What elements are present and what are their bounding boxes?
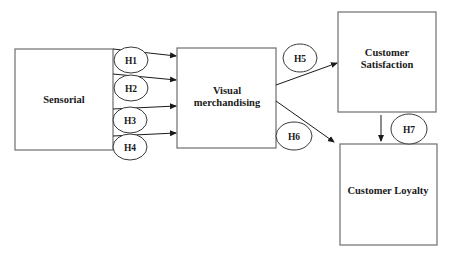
visual-merchandising-label-line2: merchandising bbox=[194, 97, 261, 108]
hypothesis-h1: H1 bbox=[114, 47, 148, 73]
sensorial-label: Sensorial bbox=[43, 94, 85, 105]
hypothesis-h2: H2 bbox=[114, 75, 148, 101]
hypothesis-h2-label: H2 bbox=[125, 84, 137, 94]
hypothesis-h3: H3 bbox=[113, 107, 147, 133]
customer-satisfaction-label-line1: Customer bbox=[365, 47, 410, 58]
hypothesis-h3-label: H3 bbox=[124, 116, 136, 126]
hypothesis-h1-label: H1 bbox=[125, 56, 137, 66]
hypothesis-h4: H4 bbox=[113, 134, 147, 160]
hypothesis-h5-label: H5 bbox=[294, 54, 306, 64]
visual-merchandising-label-line1: Visual bbox=[213, 85, 241, 96]
hypothesis-h7-label: H7 bbox=[403, 125, 415, 135]
customer-loyalty-label: Customer Loyalty bbox=[347, 185, 429, 196]
hypothesis-h4-label: H4 bbox=[124, 143, 136, 153]
conceptual-model-diagram: Sensorial Visual merchandising Customer … bbox=[0, 0, 452, 257]
hypothesis-h6-label: H6 bbox=[288, 132, 300, 142]
hypothesis-h6: H6 bbox=[276, 122, 312, 150]
hypothesis-h5: H5 bbox=[283, 44, 317, 72]
customer-satisfaction-label-line2: Satisfaction bbox=[361, 59, 414, 70]
hypothesis-h7: H7 bbox=[391, 114, 427, 144]
